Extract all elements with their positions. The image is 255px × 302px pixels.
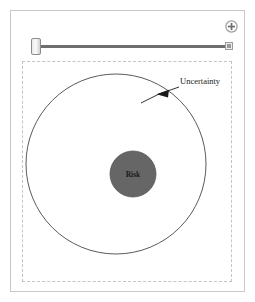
- diagram-graphic: Risk Uncertainty: [23, 62, 231, 281]
- slider-end-handle[interactable]: [225, 42, 233, 50]
- uncertainty-annotation-label: Uncertainty: [180, 76, 221, 86]
- risk-circle-label: Risk: [126, 170, 141, 179]
- plus-circle-glyph: [225, 20, 238, 33]
- toolbar: [11, 11, 246, 60]
- application-window: Risk Uncertainty: [10, 10, 245, 292]
- slider-thumb[interactable]: [31, 38, 41, 55]
- plus-circle-icon[interactable]: [225, 19, 238, 32]
- diagram-canvas[interactable]: Risk Uncertainty: [22, 61, 232, 282]
- slider-track[interactable]: [37, 45, 227, 48]
- zoom-slider[interactable]: [31, 38, 233, 56]
